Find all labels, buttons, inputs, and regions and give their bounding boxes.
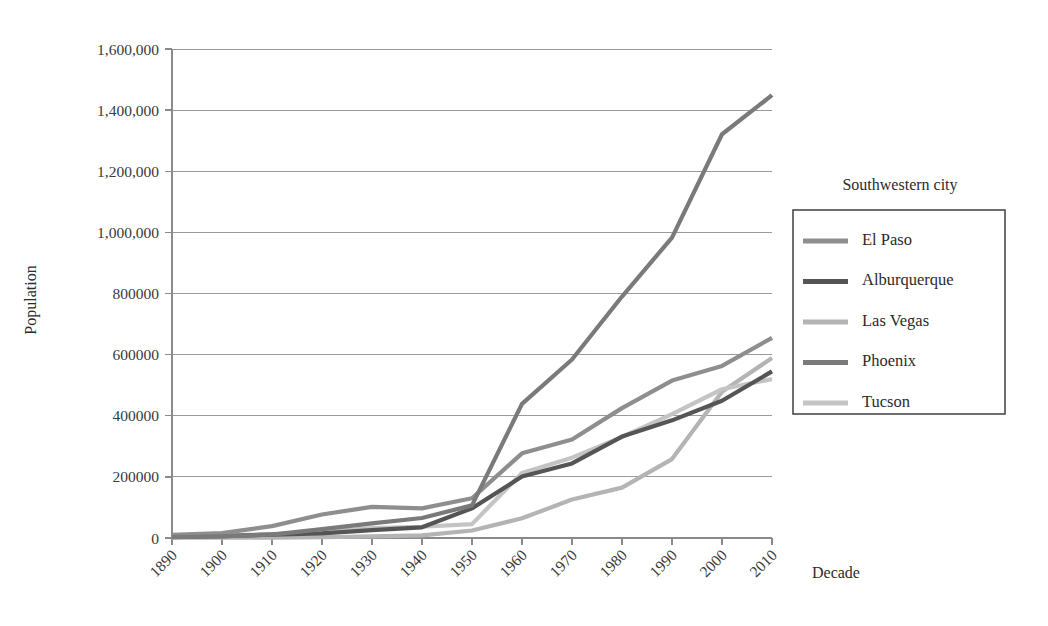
y-tick-label: 1,400,000: [97, 102, 159, 119]
series-line-las-vegas: [172, 358, 772, 538]
series-line-tucson: [172, 379, 772, 536]
y-tick-label: 1,000,000: [97, 224, 159, 241]
x-axis-title: Decade: [812, 564, 860, 581]
x-axis-ticks-group: 1890190019101920193019401950196019701980…: [146, 538, 780, 580]
x-tick-label: 1970: [546, 546, 580, 580]
x-tick-label: 1910: [246, 546, 280, 580]
series-line-phoenix: [172, 95, 772, 537]
x-tick-label: 1930: [346, 546, 380, 580]
legend-title: Southwestern city: [842, 176, 957, 194]
y-tick-label: 400000: [113, 407, 160, 424]
legend-label-alburquerque: Alburquerque: [862, 270, 954, 289]
y-tick-label: 1,600,000: [97, 41, 159, 58]
y-tick-label: 800000: [113, 285, 160, 302]
x-tick-label: 1920: [296, 546, 330, 580]
series-line-alburquerque: [172, 371, 772, 536]
y-tick-label: 0: [151, 530, 159, 547]
x-tick-label: 1990: [646, 546, 680, 580]
legend-label-phoenix: Phoenix: [862, 351, 917, 370]
y-tick-label: 600000: [113, 346, 160, 363]
legend-label-el-paso: El Paso: [862, 230, 912, 249]
x-tick-label: 1890: [146, 546, 180, 580]
x-tick-label: 2010: [746, 546, 780, 580]
chart-canvas: 02000004000006000008000001,000,0001,200,…: [0, 0, 1048, 626]
x-tick-label: 1960: [496, 546, 530, 580]
gridlines-group: [172, 49, 772, 477]
y-axis-title: Population: [22, 265, 40, 334]
y-axis-ticks-group: 02000004000006000008000001,000,0001,200,…: [97, 41, 172, 547]
x-tick-label: 1900: [196, 546, 230, 580]
y-tick-label: 1,200,000: [97, 163, 159, 180]
x-tick-label: 1950: [446, 546, 480, 580]
x-tick-label: 1940: [396, 546, 430, 580]
data-series-group: [172, 95, 772, 538]
legend-label-tucson: Tucson: [862, 392, 910, 411]
x-tick-label: 2000: [696, 546, 730, 580]
x-tick-label: 1980: [596, 546, 630, 580]
y-tick-label: 200000: [113, 468, 160, 485]
legend-entries-group: El PasoAlburquerqueLas VegasPhoenixTucso…: [803, 230, 954, 411]
legend-label-las-vegas: Las Vegas: [862, 311, 929, 330]
population-line-chart: 02000004000006000008000001,000,0001,200,…: [0, 0, 1048, 626]
